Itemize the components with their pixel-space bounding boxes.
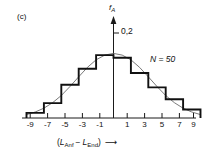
x-axis-title-sub1: Anf [65, 142, 74, 148]
y-axis-arrow-icon [111, 16, 117, 24]
x-axis-tick-marks [30, 113, 193, 118]
figure-panel-c: (c) fA 0,2 N = 50 -9 -7 -5 -3 -1 1 3 5 7… [0, 0, 210, 162]
x-tick-label-3: -3 [75, 120, 89, 129]
x-axis-title: (LAnf−LEnd)⟶ [57, 138, 117, 147]
x-tick-label-0: -9 [23, 120, 37, 129]
x-tick-label-7: 5 [155, 120, 169, 129]
y-axis-tick-label: 0,2 [121, 27, 133, 36]
x-axis-title-term1: L [60, 137, 65, 147]
sample-size-annotation: N = 50 [150, 55, 175, 64]
panel-label: (c) [17, 13, 26, 21]
x-axis-title-sub2: End [87, 142, 98, 148]
x-axis-title-paren-close: ) [98, 137, 101, 147]
x-tick-label-1: -7 [41, 120, 55, 129]
x-axis-title-minus: − [76, 137, 81, 147]
x-axis-title-arrow-icon: ⟶ [105, 137, 117, 147]
x-tick-label-4: -1 [93, 120, 107, 129]
x-tick-label-2: -5 [58, 120, 72, 129]
x-tick-label-6: 3 [138, 120, 152, 129]
x-tick-label-5: 1 [120, 120, 134, 129]
y-axis-title-subscript: A [111, 7, 115, 13]
y-axis-title: fA [109, 4, 115, 12]
x-tick-label-8: 7 [172, 120, 186, 129]
x-tick-label-9: 9 [187, 120, 201, 129]
